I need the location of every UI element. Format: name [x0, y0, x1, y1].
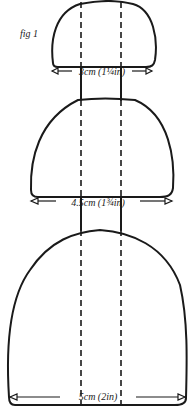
large-shape-outline — [8, 230, 187, 405]
figure-label: fig 1 — [20, 28, 38, 39]
large-measurement: 5cm (2in) — [79, 391, 118, 403]
small-measurement: 3cm (1¼in) — [78, 66, 126, 78]
medium-measurement: 4.5cm (1¾in) — [71, 197, 125, 209]
pattern-diagram: fig 1 3cm (1¼in) 4.5cm (1¾in) 5cm (2in) — [0, 0, 195, 418]
small-shape-outline — [52, 1, 156, 67]
medium-shape-outline — [31, 99, 173, 198]
